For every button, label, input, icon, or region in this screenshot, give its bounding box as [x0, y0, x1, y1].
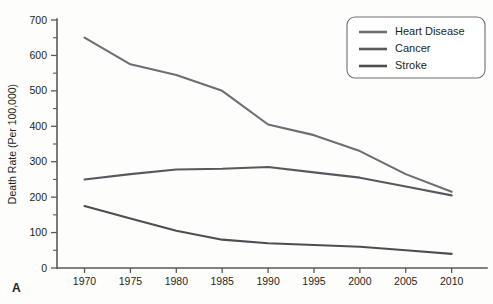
chart-legend: Heart DiseaseCancerStroke	[347, 17, 485, 78]
y-tick-label: 100	[29, 226, 47, 238]
x-tick-label: 2000	[348, 275, 372, 287]
y-tick-label: 600	[29, 49, 47, 61]
x-tick-label: 1980	[165, 275, 189, 287]
y-axis-title: Death Rate (Per 100,000)	[6, 84, 18, 204]
y-axis: 0100200300400500600700	[29, 14, 57, 274]
y-tick-label: 500	[29, 84, 47, 96]
y-tick-label: 0	[41, 262, 47, 274]
x-tick-label: 1990	[256, 275, 280, 287]
legend-label-stroke: Stroke	[395, 59, 427, 71]
series-line-stroke	[85, 206, 452, 254]
x-tick-label: 2005	[394, 275, 418, 287]
chart-figure: 0100200300400500600700 19701975198019851…	[0, 0, 493, 304]
y-tick-label: 200	[29, 191, 47, 203]
legend-label-cancer: Cancer	[395, 42, 431, 54]
series-line-cancer	[85, 167, 452, 195]
line-chart: 0100200300400500600700 19701975198019851…	[0, 0, 493, 304]
legend-label-heart-disease: Heart Disease	[395, 25, 465, 37]
x-tick-label: 2010	[440, 275, 464, 287]
y-tick-label: 700	[29, 14, 47, 26]
x-tick-label: 1975	[119, 275, 143, 287]
x-tick-label: 1970	[73, 275, 97, 287]
x-tick-label: 1985	[211, 275, 235, 287]
x-tick-label: 1995	[302, 275, 326, 287]
x-axis: 197019751980198519901995200020052010	[57, 268, 487, 287]
panel-label: A	[12, 281, 21, 295]
y-tick-label: 400	[29, 120, 47, 132]
y-tick-label: 300	[29, 155, 47, 167]
